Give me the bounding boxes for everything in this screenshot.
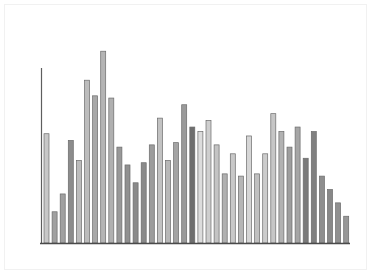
bar	[60, 194, 65, 243]
bar	[93, 96, 98, 243]
bar	[344, 216, 349, 243]
bar	[125, 165, 130, 243]
bar	[287, 147, 292, 243]
bar	[68, 140, 73, 243]
bar	[230, 154, 235, 243]
bar	[101, 51, 106, 243]
chart-figure	[0, 0, 371, 274]
bar	[247, 136, 252, 243]
bar	[311, 132, 316, 244]
bar	[174, 143, 179, 243]
bar	[109, 98, 114, 243]
bar	[303, 158, 308, 243]
bar	[198, 132, 203, 244]
bar	[149, 145, 154, 243]
bar	[336, 203, 341, 243]
bar-chart-plot	[0, 0, 371, 274]
bar	[85, 80, 90, 243]
bar	[319, 176, 324, 243]
bar	[328, 189, 333, 243]
bar	[182, 105, 187, 243]
bar	[263, 154, 268, 243]
bar	[76, 160, 81, 243]
bar	[214, 145, 219, 243]
bar	[117, 147, 122, 243]
bar	[271, 114, 276, 243]
bar	[206, 120, 211, 243]
bar	[190, 127, 195, 243]
bar	[44, 134, 49, 243]
bar	[157, 118, 162, 243]
bar	[222, 174, 227, 243]
bar	[133, 183, 138, 243]
bar	[166, 160, 171, 243]
bar	[238, 176, 243, 243]
bar	[295, 127, 300, 243]
bar	[141, 163, 146, 243]
bar	[255, 174, 260, 243]
bar	[279, 132, 284, 244]
bars-group	[44, 51, 349, 243]
bar	[52, 212, 57, 243]
